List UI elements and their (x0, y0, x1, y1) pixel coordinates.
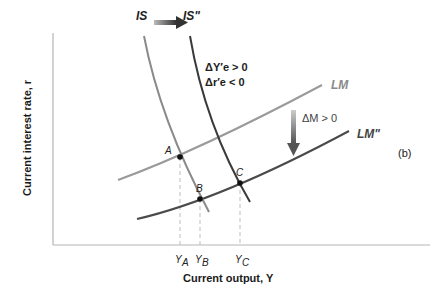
is-label: IS (136, 9, 147, 23)
panel-label: (b) (398, 147, 411, 159)
y-axis-title: Current interest rate, r (21, 79, 33, 196)
x-tick-ya: Y A (175, 254, 189, 268)
svg-text:C: C (242, 257, 250, 268)
point-b-label: B (196, 183, 203, 194)
point-c-label: C (236, 167, 244, 178)
svg-text:B: B (202, 257, 209, 268)
point-a-dot (177, 154, 183, 160)
lm-shift-annotation: ΔM > 0 (302, 112, 337, 124)
is-shift-annotation-2: Δr′e < 0 (205, 76, 245, 88)
x-axis-title: Current output, Y (183, 272, 274, 284)
is-new-label: IS" (183, 9, 200, 23)
is-lm-diagram: IS IS" LM LM" ΔY′e > 0 Δr′e < 0 ΔM > 0 (… (0, 0, 432, 293)
lm-new-label: LM" (357, 127, 380, 141)
lm-label: LM (331, 78, 349, 92)
point-c-dot (237, 180, 243, 186)
lm-shift-arrow (287, 110, 300, 156)
point-b-dot (197, 196, 203, 202)
svg-text:A: A (181, 257, 189, 268)
point-a-label: A (164, 145, 172, 156)
x-tick-yc: Y C (235, 254, 250, 268)
x-tick-yb: Y B (195, 254, 209, 268)
is-shift-annotation-1: ΔY′e > 0 (205, 61, 248, 73)
